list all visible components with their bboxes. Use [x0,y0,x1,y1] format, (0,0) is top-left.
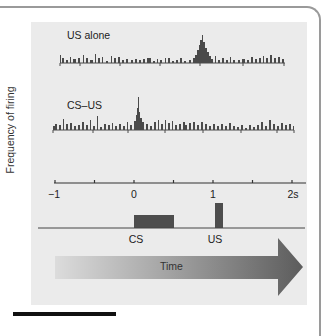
tick-label-1: 1 [210,188,216,200]
tick-label-0: 0 [131,188,137,200]
cs-stimulus-block [134,215,174,228]
tick-label-neg1: −1 [48,188,60,200]
event-label-us: US [208,233,223,245]
event-label-cs: CS [129,233,144,245]
time-arrow-label: Time [160,260,183,272]
time-axis [54,180,306,183]
us-stimulus-block [215,203,223,228]
tick-label-2s: 2s [287,188,298,200]
histogram-us-alone [60,35,285,66]
histogram-cs-us [53,97,294,133]
caption-rule [13,312,116,316]
